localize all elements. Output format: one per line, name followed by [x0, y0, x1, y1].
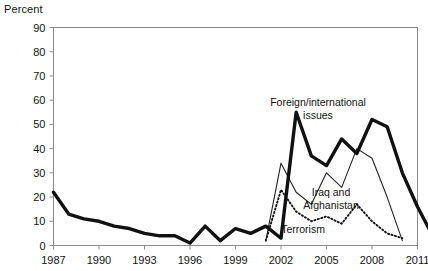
y-axis-tick-label: 70	[33, 70, 45, 82]
y-axis-tick-label: 40	[33, 143, 45, 155]
line-chart-plot: 0102030405060708090 19871990199319961999…	[0, 0, 428, 271]
x-axis-tick-marks	[54, 246, 418, 250]
annotation-foreign-international-line2: issues	[303, 109, 333, 121]
x-axis-tick-label: 1990	[87, 254, 111, 266]
annotation-terrorism-line1: Terrorism	[281, 223, 325, 235]
annotation-terrorism: Terrorism	[281, 223, 325, 235]
y-axis-tick-label: 20	[33, 191, 45, 203]
y-axis-tick-label: 30	[33, 167, 45, 179]
x-axis-tick-label: 2008	[360, 254, 384, 266]
chart-container: Percent 0102030405060708090 198719901993…	[0, 0, 428, 271]
y-axis-tick-label: 60	[33, 94, 45, 106]
annotation-iraq-afghanistan: Iraq and Afghanistan	[303, 186, 359, 211]
y-axis-tick-label: 80	[33, 46, 45, 58]
x-axis-tick-label: 1987	[41, 254, 65, 266]
y-axis-tick-label: 10	[33, 215, 45, 227]
x-axis-tick-label: 2005	[314, 254, 338, 266]
y-axis-tick-label: 50	[33, 118, 45, 130]
series-line-foreign-international	[54, 112, 428, 243]
x-axis-tick-label: 1993	[132, 254, 156, 266]
annotation-iraq-afghanistan-line2: Afghanistan	[303, 199, 359, 211]
annotation-iraq-afghanistan-line1: Iraq and	[312, 186, 351, 198]
x-axis-tick-label: 2002	[269, 254, 293, 266]
y-axis-tick-label: 90	[33, 22, 45, 34]
y-axis-tick-marks	[50, 28, 54, 246]
annotation-foreign-international-line1: Foreign/international	[270, 96, 366, 108]
annotation-foreign-international: Foreign/international issues	[270, 96, 366, 121]
y-axis-tick-label: 0	[39, 240, 45, 252]
x-axis-tick-label: 1999	[223, 254, 247, 266]
x-axis-tick-label: 2011	[406, 254, 428, 266]
y-axis-tick-labels: 0102030405060708090	[33, 22, 45, 252]
x-axis-tick-labels: 198719901993199619992002200520082011	[41, 254, 428, 266]
x-axis-tick-label: 1996	[178, 254, 202, 266]
